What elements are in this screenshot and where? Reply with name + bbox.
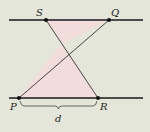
point-r xyxy=(96,96,100,100)
point-q xyxy=(107,18,111,22)
point-s xyxy=(44,18,48,22)
label-r: R xyxy=(99,101,108,112)
label-d: d xyxy=(55,113,61,124)
label-p: P xyxy=(9,101,17,112)
bottom-shaded-triangle xyxy=(19,44,98,99)
diagram-canvas: S Q P R d xyxy=(0,0,150,132)
label-q: Q xyxy=(111,7,119,18)
label-s: S xyxy=(36,7,43,18)
point-p xyxy=(17,96,21,100)
geometry-diagram: S Q P R d xyxy=(0,0,150,132)
top-shaded-triangle xyxy=(46,20,109,44)
distance-brace xyxy=(20,101,97,109)
